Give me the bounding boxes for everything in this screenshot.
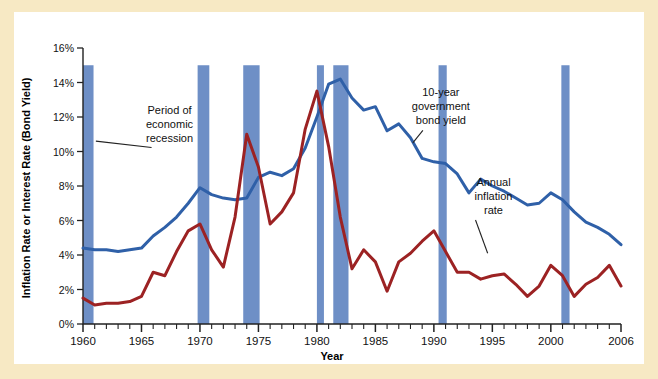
x-tick-label: 1970 bbox=[187, 335, 213, 347]
recession-band bbox=[83, 65, 94, 324]
x-axis-tick-labels: 1960196519701975198019851990199520002006 bbox=[70, 335, 634, 347]
x-tick-label: 1990 bbox=[421, 335, 447, 347]
inflation-bond-yield-chart: 0%2%4%6%8%10%12%14%16% 19601965197019751… bbox=[14, 12, 644, 364]
y-tick-label: 6% bbox=[59, 215, 74, 227]
y-tick-label: 12% bbox=[53, 111, 74, 123]
series-0-label-text: bond yield bbox=[416, 114, 466, 126]
y-tick-label: 16% bbox=[53, 42, 74, 54]
series-0-label-text: government bbox=[412, 100, 470, 112]
y-tick-label: 4% bbox=[59, 249, 74, 261]
y-axis-title: Inflation Rate or Interest Rate (Bond Yi… bbox=[20, 77, 32, 298]
x-tick-label: 2006 bbox=[608, 335, 634, 347]
annotations-group: Period ofeconomicrecession10-yeargovernm… bbox=[96, 86, 513, 253]
recession-annotation-text: Period of bbox=[148, 104, 193, 116]
x-tick-label: 1980 bbox=[304, 335, 330, 347]
y-tick-label: 0% bbox=[59, 318, 74, 330]
x-tick-label: 1995 bbox=[480, 335, 506, 347]
y-tick-label: 14% bbox=[53, 77, 74, 89]
recession-band bbox=[243, 65, 259, 324]
series-0-label-text: 10-year bbox=[422, 86, 460, 98]
recession-annotation-leader bbox=[96, 141, 152, 147]
recession-band bbox=[198, 65, 210, 324]
y-tick-label: 10% bbox=[53, 146, 74, 158]
series-0-label-leader bbox=[413, 130, 423, 143]
x-tick-label: 1985 bbox=[363, 335, 389, 347]
x-tick-label: 2000 bbox=[538, 335, 564, 347]
figure-frame: 0%2%4%6%8%10%12%14%16% 19601965197019751… bbox=[0, 0, 658, 379]
series-1-label-text: rate bbox=[484, 204, 503, 216]
chart-panel: 0%2%4%6%8%10%12%14%16% 19601965197019751… bbox=[14, 12, 644, 364]
x-tick-label: 1965 bbox=[129, 335, 155, 347]
series-1-label-text: inflation bbox=[475, 190, 513, 202]
recession-annotation-text: recession bbox=[146, 132, 193, 144]
series-1-label-text: Annual bbox=[476, 176, 510, 188]
y-tick-label: 8% bbox=[59, 180, 74, 192]
recession-annotation-text: economic bbox=[146, 118, 194, 130]
y-axis-tick-labels: 0%2%4%6%8%10%12%14%16% bbox=[53, 42, 74, 330]
y-tick-label: 2% bbox=[59, 284, 74, 296]
x-tick-label: 1960 bbox=[70, 335, 96, 347]
x-tick-label: 1975 bbox=[246, 335, 272, 347]
x-axis-title: Year bbox=[320, 350, 344, 362]
series-1-label-leader bbox=[476, 220, 488, 253]
